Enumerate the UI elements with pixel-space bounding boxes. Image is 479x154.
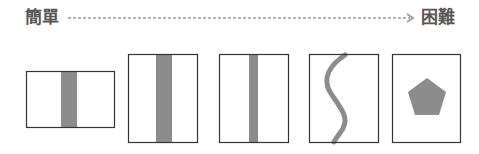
- difficulty-diagram: [0, 0, 479, 154]
- vertical-stripe: [156, 54, 172, 143]
- panel-5: [393, 55, 461, 143]
- difficulty-arrow: [68, 14, 413, 22]
- vertical-stripe: [61, 71, 77, 128]
- panel-4: [310, 55, 379, 143]
- s-curve: [327, 55, 345, 142]
- pentagon: [408, 78, 446, 115]
- panel-3: [220, 54, 289, 143]
- vertical-stripe: [249, 54, 258, 143]
- panel-2: [129, 54, 198, 143]
- panel-1: [27, 71, 115, 128]
